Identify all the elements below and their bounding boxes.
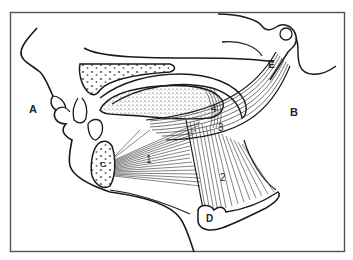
skull-base-line [222, 42, 262, 56]
hyoglossus-muscle [190, 122, 274, 212]
diagram-canvas: A B C D E 1 2 3 4 [0, 0, 353, 260]
anatomy-diagram: A B C D E 1 2 3 4 [0, 0, 353, 260]
upper-incisor [73, 98, 87, 123]
mastoid-condyle [280, 28, 292, 40]
nasal-floor [84, 48, 274, 62]
lower-incisor [88, 120, 103, 141]
label-C: C [100, 160, 106, 169]
genioglossus-muscle [114, 122, 200, 186]
label-3-styloglossus: 3 [218, 122, 224, 133]
label-1-genioglossus: 1 [146, 154, 152, 165]
label-B: B [290, 106, 298, 118]
label-A: A [29, 103, 37, 115]
label-D: D [206, 213, 213, 224]
tongue-body [100, 86, 223, 119]
styloid-process [218, 14, 296, 80]
label-E: E [268, 59, 275, 70]
label-2-hyoglossus: 2 [220, 172, 226, 183]
hyoglossus-outline [186, 120, 276, 214]
posterior-neck-contour [296, 38, 336, 74]
hyoid-bone [198, 192, 279, 230]
label-4-palatoglossus: 4 [211, 103, 217, 114]
